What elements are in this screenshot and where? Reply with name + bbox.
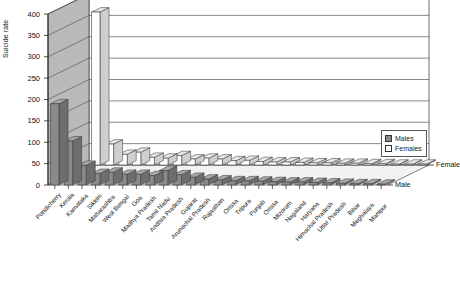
legend-item-females: Females — [385, 144, 422, 154]
females-swatch-icon — [385, 145, 392, 152]
depth-label-female: Female — [436, 160, 460, 169]
chart-legend: Males Females — [381, 130, 427, 157]
males-swatch-icon — [385, 135, 392, 142]
legend-item-males: Males — [385, 134, 422, 144]
legend-label-males: Males — [395, 134, 414, 144]
depth-label-male: Male — [395, 180, 411, 189]
legend-label-females: Females — [395, 144, 422, 154]
